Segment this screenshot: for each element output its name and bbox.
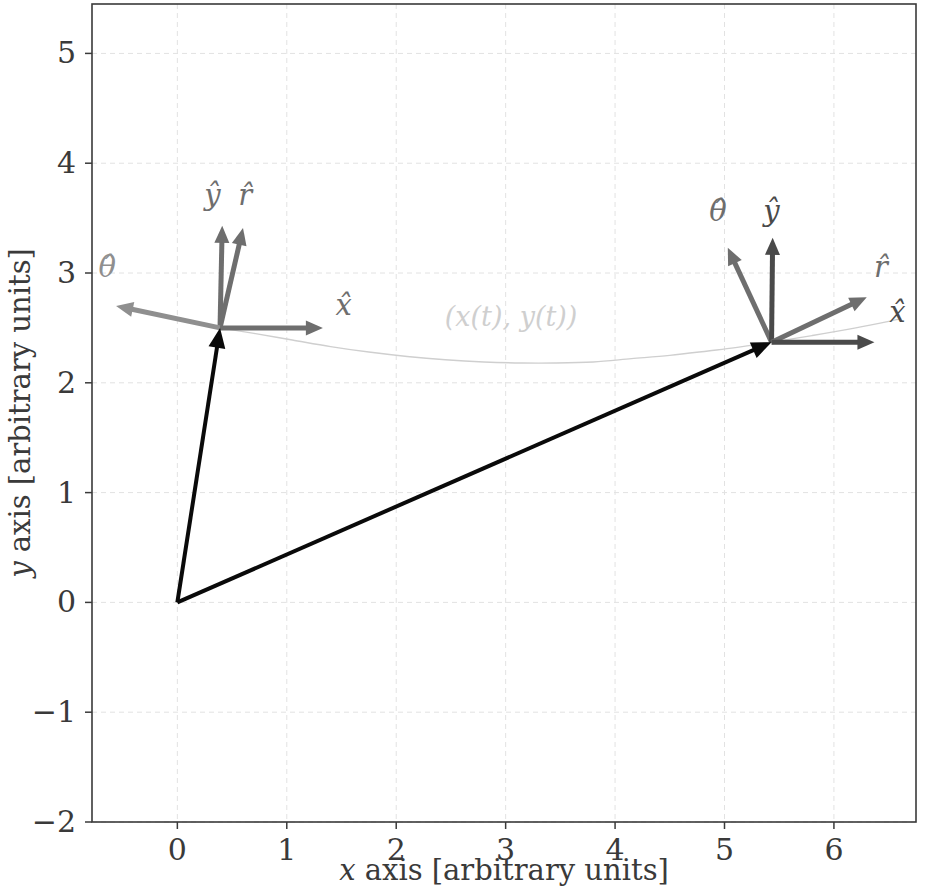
ytick-label-6: 4 — [57, 145, 76, 180]
frame-early-x-hat-label: x̂ — [336, 288, 352, 322]
frame-early-theta-hat-arrow — [116, 302, 220, 328]
frame-early-x-hat-arrow — [220, 320, 323, 335]
position-vector-early — [177, 328, 225, 602]
plot-frame — [92, 4, 916, 822]
frame-late: θ̂ŷr̂x̂ — [709, 194, 905, 349]
ytick-label-5: 3 — [57, 255, 76, 290]
frame-late-y-hat-label: ŷ — [761, 194, 780, 228]
frame-late-r-hat-label: r̂ — [874, 250, 890, 284]
grid-lines — [92, 4, 916, 822]
x-axis-label: x axis [arbitrary units] — [339, 853, 669, 887]
plot-area: 0123456−2−1012345x axis [arbitrary units… — [0, 0, 932, 891]
y-axis-label-var: y — [3, 561, 37, 580]
x-axis-label-var: x — [339, 853, 355, 887]
frame-early-x-hat-arrow-head — [306, 320, 323, 335]
position-vector-early-shaft — [177, 346, 217, 603]
axes-frame — [92, 4, 916, 822]
position-vector-early-head — [209, 328, 226, 349]
axis-labels: x axis [arbitrary units]y axis [arbitrar… — [3, 248, 669, 887]
frame-early-r-hat-label: r̂ — [238, 178, 254, 212]
xtick-label-1: 1 — [277, 832, 296, 867]
y-axis-label-rest: axis [arbitrary units] — [3, 248, 37, 561]
y-axis-label: y axis [arbitrary units] — [3, 248, 37, 580]
frame-late-x-hat-label: x̂ — [889, 295, 905, 329]
xtick-label-0: 0 — [168, 832, 187, 867]
frame-early-r-hat-arrow-head — [232, 228, 247, 246]
x-axis-label-rest: axis [arbitrary units] — [356, 853, 669, 887]
ytick-label-3: 1 — [57, 475, 76, 510]
position-vectors — [177, 328, 771, 602]
frame-late-y-hat-arrow-shaft — [772, 253, 773, 342]
trajectory-label: (x(t), y(t)) — [445, 301, 578, 332]
frame-late-x-hat-arrow-head — [857, 335, 874, 350]
frame-early-theta-hat-arrow-shaft — [131, 309, 220, 328]
position-vector-late-shaft — [177, 349, 755, 602]
frame-late-theta-hat-arrow — [728, 248, 772, 342]
frame-late-y-hat-arrow — [765, 238, 780, 342]
position-vector-late — [177, 342, 771, 602]
frame-early-y-hat-label: ŷ — [202, 178, 221, 212]
frame-early: ŷr̂θ̂x̂ — [99, 178, 352, 335]
frame-late-r-hat-arrow — [772, 297, 867, 342]
ytick-label-0: −2 — [32, 804, 76, 839]
xtick-label-6: 6 — [824, 832, 843, 867]
ytick-label-7: 5 — [57, 35, 76, 70]
frame-late-theta-hat-label: θ̂ — [709, 194, 726, 228]
frame-late-y-hat-arrow-head — [765, 238, 780, 255]
ytick-label-4: 2 — [57, 365, 76, 400]
ytick-label-2: 0 — [57, 584, 76, 619]
xtick-label-5: 5 — [715, 832, 734, 867]
ytick-label-1: −1 — [32, 694, 76, 729]
axis-ticks: 0123456−2−1012345 — [32, 35, 844, 867]
figure-canvas: 0123456−2−1012345x axis [arbitrary units… — [0, 0, 932, 891]
frame-early-y-hat-arrow-head — [214, 226, 229, 243]
frame-early-theta-hat-label: θ̂ — [99, 250, 116, 284]
frame-early-theta-hat-arrow-head — [116, 302, 134, 317]
frame-late-r-hat-arrow-shaft — [772, 304, 854, 343]
